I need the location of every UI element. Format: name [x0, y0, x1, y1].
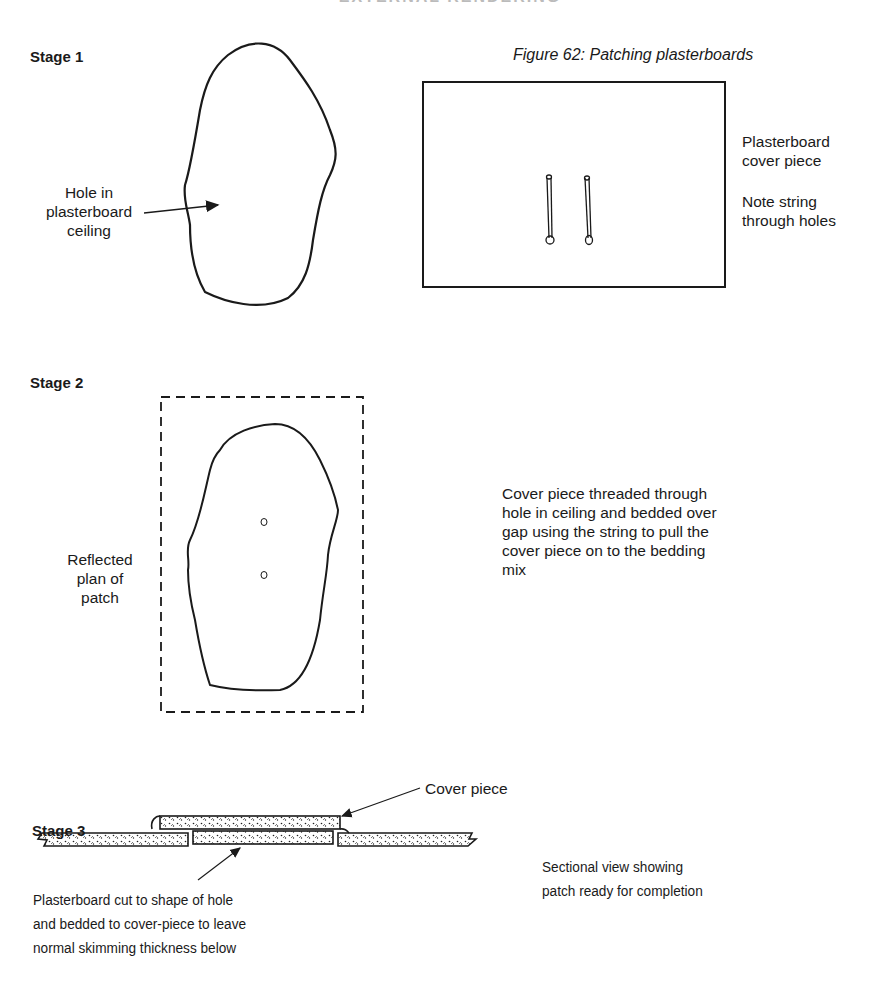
- patch-dashed-outline: [161, 397, 363, 712]
- hole-label: Hole in plasterboard ceiling: [34, 183, 144, 240]
- cut-board-label: Plasterboard cut to shape of hole and be…: [33, 888, 246, 960]
- cover-piece-section: [160, 816, 340, 829]
- ceiling-board-right: [338, 833, 476, 846]
- hole-outline-stage1: [185, 44, 336, 305]
- stage-2-description: Cover piece threaded through hole in cei…: [502, 484, 717, 579]
- string-hole: [261, 519, 267, 526]
- cover-piece-section-label: Cover piece: [425, 779, 508, 798]
- stage-2-label: Stage 2: [30, 374, 83, 391]
- reflected-plan-label: Reflected plan of patch: [50, 550, 150, 607]
- diagram-drawing: [0, 0, 869, 983]
- section-drawing: [38, 816, 476, 846]
- figure-caption: Figure 62: Patching plasterboards: [513, 46, 753, 64]
- note-string-label: Note string through holes: [742, 192, 836, 230]
- string-icon: [546, 175, 593, 245]
- hole-arrow: [144, 205, 218, 213]
- patch-board-section: [193, 831, 333, 844]
- sectional-view-label: Sectional view showing patch ready for c…: [542, 855, 703, 903]
- hole-outline-stage2: [188, 424, 338, 690]
- stage-1-label: Stage 1: [30, 48, 83, 65]
- string-hole: [261, 572, 267, 579]
- cover-piece-rect: [423, 82, 725, 287]
- cover-piece-leader: [342, 788, 420, 816]
- cut-board-leader: [198, 848, 240, 880]
- stage-3-label: Stage 3: [32, 822, 85, 839]
- cover-piece-label: Plasterboard cover piece: [742, 132, 830, 170]
